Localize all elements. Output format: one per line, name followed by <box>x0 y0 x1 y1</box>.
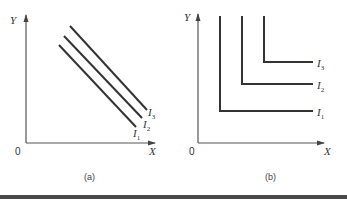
curve-label-b-i2: I2 <box>316 79 325 94</box>
y-axis-label-b: Y <box>184 11 192 23</box>
indifference-curves-figure: Y X 0 I1 I2 I3 (a) Y X 0 I1 I2 I3 (b) <box>0 0 347 199</box>
panel-a: Y X 0 I1 I2 I3 (a) <box>10 14 157 182</box>
caption-b: (b) <box>265 172 276 182</box>
curve-label-a-i3: I3 <box>147 106 156 121</box>
panel-b: Y X 0 I1 I2 I3 (b) <box>184 11 332 182</box>
origin-label-b: 0 <box>189 146 195 157</box>
curve-b-i1 <box>220 16 313 111</box>
caption-a: (a) <box>84 172 95 182</box>
bottom-rule <box>0 195 347 199</box>
curve-label-a-i2: I2 <box>142 118 151 133</box>
curve-b-i2 <box>242 16 313 84</box>
y-axis-label-a: Y <box>10 14 18 26</box>
curve-a-i2 <box>64 36 142 118</box>
origin-label-a: 0 <box>15 146 21 157</box>
curve-b-i3 <box>264 16 313 62</box>
x-axis-label-a: X <box>148 145 157 157</box>
curve-label-b-i3: I3 <box>316 57 325 72</box>
curve-label-b-i1: I1 <box>316 106 325 121</box>
x-axis-label-b: X <box>323 145 332 157</box>
curve-label-a-i1: I1 <box>132 127 141 142</box>
